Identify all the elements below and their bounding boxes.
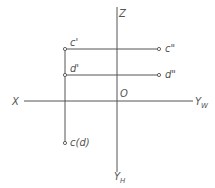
c-front-label: c' bbox=[70, 37, 78, 48]
point-d-front bbox=[63, 73, 66, 76]
point-c-side bbox=[157, 47, 160, 50]
point-d-side bbox=[157, 73, 160, 76]
yh-axis-label: YH bbox=[114, 171, 126, 185]
c-side-label: c" bbox=[165, 43, 175, 54]
d-front-label: d' bbox=[70, 63, 79, 74]
projection-diagram: Z X O YW YH c' c" d' d" c(d) bbox=[0, 0, 215, 188]
d-side-label: d" bbox=[165, 69, 176, 80]
x-axis-label: X bbox=[11, 96, 20, 107]
origin-label: O bbox=[120, 88, 128, 99]
cd-top-label: c(d) bbox=[70, 137, 90, 148]
point-cd-top bbox=[63, 141, 66, 144]
yw-axis-label: YW bbox=[195, 96, 209, 110]
point-c-front bbox=[63, 47, 66, 50]
z-axis-label: Z bbox=[118, 8, 127, 19]
